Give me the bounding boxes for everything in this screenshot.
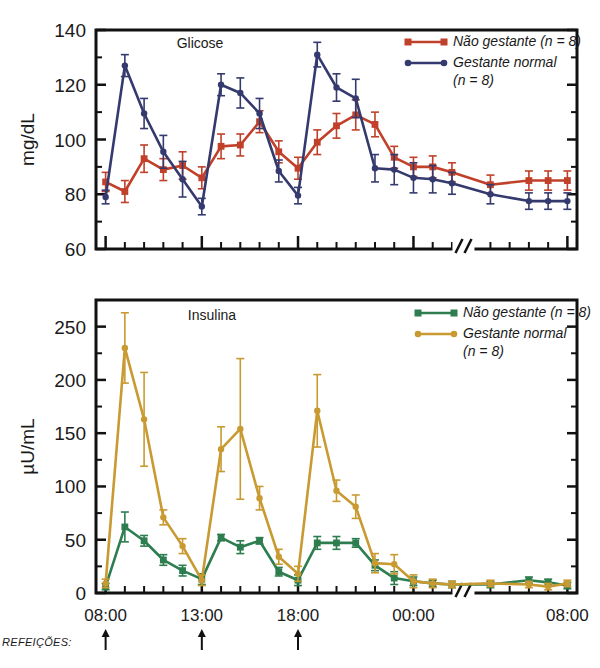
- legend-marker: [415, 310, 422, 317]
- legend-marker: [451, 331, 458, 338]
- legend-1: Não gestante (n = 8)Gestante normal(n = …: [415, 304, 592, 359]
- data-point: [160, 557, 167, 564]
- data-point: [198, 174, 205, 181]
- data-point: [410, 175, 416, 181]
- error-bars: [102, 100, 572, 203]
- data-point: [391, 166, 397, 172]
- meal-arrow: [102, 629, 110, 650]
- y-tick-label: 100: [54, 130, 86, 151]
- x-tick-label: 13:00: [181, 606, 224, 625]
- meal-arrow-head: [102, 629, 110, 637]
- data-point: [256, 110, 262, 116]
- data-point: [237, 544, 244, 551]
- data-point: [526, 581, 532, 587]
- data-point: [237, 90, 243, 96]
- data-point: [352, 540, 359, 547]
- data-point: [141, 110, 147, 116]
- data-point: [333, 84, 339, 90]
- legend-label: Não gestante (n = 8): [453, 33, 581, 49]
- data-point: [237, 142, 244, 149]
- data-point: [121, 524, 128, 531]
- y-tick-label: 150: [54, 423, 86, 444]
- data-point: [487, 191, 493, 197]
- data-point: [237, 426, 243, 432]
- data-point: [333, 540, 340, 547]
- data-point: [295, 571, 301, 577]
- y-tick-label: 200: [54, 370, 86, 391]
- data-point: [545, 198, 551, 204]
- data-point: [564, 177, 571, 184]
- legend-marker: [451, 310, 458, 317]
- legend-label-continued: (n = 8): [453, 72, 494, 88]
- y-tick-label: 80: [65, 184, 86, 205]
- x-tick-label: 08:00: [546, 606, 589, 625]
- meal-arrow: [198, 629, 206, 650]
- legend-label: Não gestante (n = 8): [463, 304, 591, 320]
- figure-svg: 6080100120140mg/dLGlicoseNão gestante (n…: [0, 0, 600, 668]
- meal-arrow: [294, 629, 302, 650]
- data-point: [353, 503, 359, 509]
- data-markers: [102, 524, 571, 590]
- legend-label: Gestante normal: [463, 325, 567, 341]
- data-point: [526, 198, 532, 204]
- x-axis-1: 08:0013:0018:0000:0008:00: [84, 580, 588, 625]
- data-point: [218, 446, 224, 452]
- legend-item[interactable]: Gestante normal(n = 8): [405, 54, 558, 88]
- data-point: [449, 180, 455, 186]
- data-point: [372, 121, 379, 128]
- legend-label: Gestante normal: [453, 54, 557, 70]
- series-nao-gestante: [102, 100, 572, 203]
- series-nao-gestante: [102, 512, 572, 590]
- data-point: [295, 192, 301, 198]
- series-line: [106, 348, 568, 587]
- data-point: [141, 416, 147, 422]
- data-point: [333, 488, 339, 494]
- panel-title: Glicose: [177, 35, 224, 51]
- data-point: [218, 82, 224, 88]
- data-point: [122, 345, 128, 351]
- data-point: [314, 139, 321, 146]
- x-tick-label: 08:00: [84, 606, 127, 625]
- data-point: [199, 203, 205, 209]
- data-point: [141, 537, 148, 544]
- data-point: [487, 580, 493, 586]
- legend-item[interactable]: Não gestante (n = 8): [405, 33, 582, 49]
- x-tick-label: 00:00: [392, 606, 435, 625]
- x-tick-label: 18:00: [277, 606, 320, 625]
- data-point: [372, 560, 378, 566]
- y-tick-label: 50: [65, 530, 86, 551]
- legend-marker: [405, 39, 412, 46]
- panel-title: Insulina: [188, 307, 236, 323]
- data-point: [275, 568, 282, 575]
- data-point: [545, 583, 551, 589]
- legend-marker: [441, 39, 448, 46]
- y-tick-label: 0: [75, 583, 86, 604]
- data-point: [160, 149, 166, 155]
- chart-panel-glicose: 6080100120140mg/dLGlicoseNão gestante (n…: [17, 20, 581, 260]
- data-point: [391, 561, 397, 567]
- legend-item[interactable]: Não gestante (n = 8): [415, 304, 592, 320]
- data-point: [314, 540, 321, 547]
- data-point: [256, 537, 263, 544]
- legend-marker: [441, 60, 448, 67]
- data-point: [449, 581, 455, 587]
- error-bars: [102, 512, 572, 590]
- meal-arrow-head: [294, 629, 302, 637]
- legend-item[interactable]: Gestante normal(n = 8): [415, 325, 568, 359]
- data-point: [102, 194, 108, 200]
- data-point: [102, 580, 108, 586]
- data-point: [121, 188, 128, 195]
- legend-label-continued: (n = 8): [463, 343, 504, 359]
- data-point: [256, 495, 262, 501]
- data-point: [314, 51, 320, 57]
- figure-root: 6080100120140mg/dLGlicoseNão gestante (n…: [0, 0, 600, 668]
- data-markers: [102, 345, 570, 590]
- data-point: [275, 148, 282, 155]
- data-point: [199, 577, 205, 583]
- chart-panel-insulina: 050100150200250µU/mL08:0013:0018:0000:00…: [2, 300, 591, 650]
- data-point: [545, 177, 552, 184]
- data-point: [141, 155, 148, 162]
- y-axis-title: mg/dL: [17, 113, 38, 166]
- legend-0: Não gestante (n = 8)Gestante normal(n = …: [405, 33, 582, 88]
- data-point: [160, 514, 166, 520]
